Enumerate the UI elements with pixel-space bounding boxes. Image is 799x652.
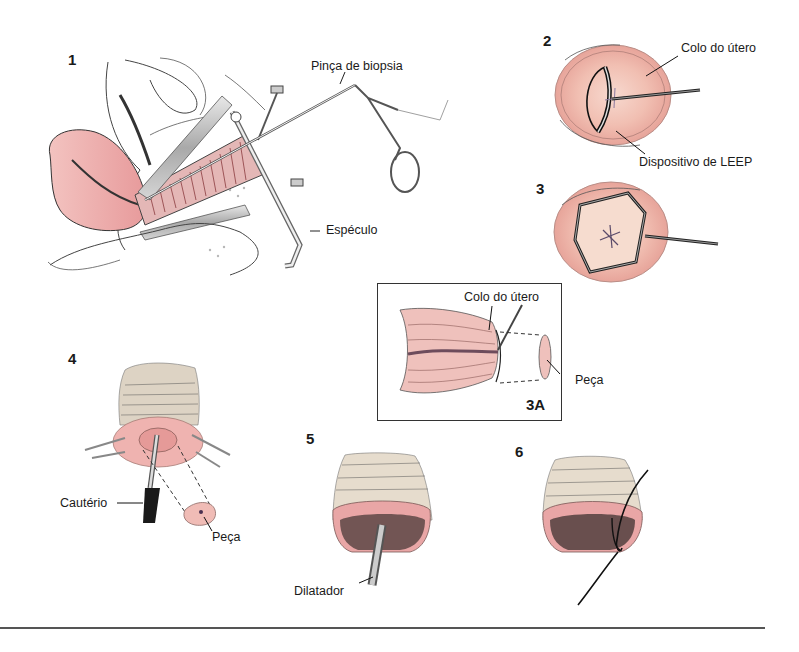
panel-2-drawing	[555, 45, 700, 154]
label-specimen-panel4: Peça	[212, 530, 241, 544]
label-dilator: Dilatador	[294, 584, 344, 598]
panel-3-drawing	[554, 182, 718, 282]
label-biopsy-forceps: Pinça de biopsia	[311, 59, 403, 73]
panel-1-drawing	[48, 58, 448, 275]
panel-number-3a: 3A	[526, 396, 545, 413]
panel-number-4: 4	[68, 350, 76, 367]
panel-number-3: 3	[536, 180, 544, 197]
label-specimen-panel3a: Peça	[575, 373, 604, 387]
label-leep-device: Dispositivo de LEEP	[639, 155, 752, 169]
panel-5-drawing	[333, 453, 432, 585]
panel-number-6: 6	[515, 443, 523, 460]
bottom-divider	[0, 627, 765, 629]
label-speculum: Espéculo	[326, 223, 377, 237]
panel-6-drawing	[543, 456, 648, 605]
label-cervix-panel3a: Colo do útero	[464, 290, 539, 304]
panel-number-2: 2	[543, 32, 551, 49]
panel-number-1: 1	[68, 51, 76, 68]
label-cervix-panel2: Colo do útero	[681, 41, 756, 55]
label-cautery: Cautério	[60, 496, 107, 510]
panel-number-5: 5	[306, 430, 314, 447]
